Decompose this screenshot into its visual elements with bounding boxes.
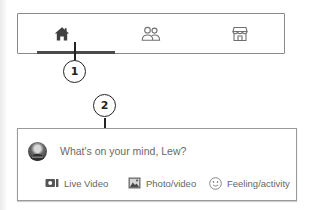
avatar[interactable] xyxy=(28,142,47,161)
tab-marketplace[interactable] xyxy=(196,14,284,53)
callout-1: 1 xyxy=(63,60,86,83)
smiley-icon xyxy=(209,177,227,190)
friends-icon xyxy=(141,26,161,42)
live-video-button[interactable]: Live Video xyxy=(45,174,108,192)
tab-bar xyxy=(17,13,285,54)
home-icon xyxy=(54,26,70,42)
marketplace-icon xyxy=(232,26,248,42)
feeling-activity-button[interactable]: Feeling/activity xyxy=(209,174,290,192)
live-video-icon xyxy=(45,178,64,188)
callout-2: 2 xyxy=(93,94,116,117)
photo-icon xyxy=(128,177,146,189)
feeling-activity-label: Feeling/activity xyxy=(227,178,290,189)
photo-video-label: Photo/video xyxy=(146,178,196,189)
photo-video-button[interactable]: Photo/video xyxy=(128,174,196,192)
live-video-label: Live Video xyxy=(64,178,108,189)
tab-friends[interactable] xyxy=(107,14,195,53)
page-edge-shadow xyxy=(0,0,7,210)
whats-on-your-mind-input[interactable]: What's on your mind, Lew? xyxy=(60,145,186,157)
tab-home[interactable] xyxy=(18,14,106,53)
active-tab-indicator xyxy=(37,51,115,54)
callout-1-leader-line xyxy=(74,42,76,61)
composer-actions: Live Video Photo/video xyxy=(18,174,296,192)
post-composer: What's on your mind, Lew? Live Video xyxy=(17,128,297,201)
